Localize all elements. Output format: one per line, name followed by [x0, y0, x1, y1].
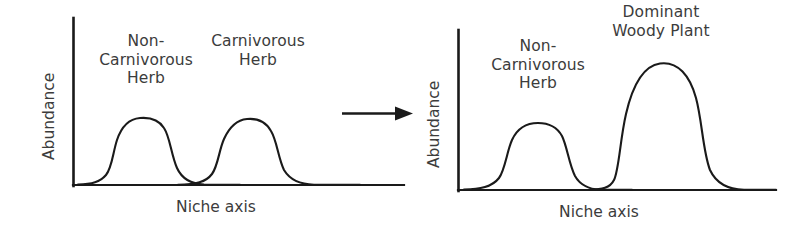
curve-carnivorous-herb — [178, 119, 360, 185]
x-axis-label: Niche axis — [536, 203, 662, 221]
y-axis-label: Abundance — [425, 81, 443, 168]
niche-axis-figure: Abundance Niche axis Non- Carnivorous He… — [0, 0, 808, 233]
curve-non-carnivorous-herb — [464, 123, 632, 190]
curve-non-carnivorous-herb — [78, 118, 240, 185]
panel-after: Abundance Niche axis Non- Carnivorous He… — [404, 0, 808, 233]
curve-label-non-carnivorous-herb: Non- Carnivorous Herb — [96, 32, 196, 88]
curve-label-carnivorous-herb: Carnivorous Herb — [208, 32, 308, 69]
curve-label-dominant-woody-plant: Dominant Woody Plant — [594, 3, 728, 40]
y-axis-label: Abundance — [40, 73, 58, 160]
x-axis-label: Niche axis — [153, 198, 279, 216]
curve-dominant-woody-plant — [590, 63, 776, 190]
curve-label-non-carnivorous-herb: Non- Carnivorous Herb — [488, 37, 588, 93]
